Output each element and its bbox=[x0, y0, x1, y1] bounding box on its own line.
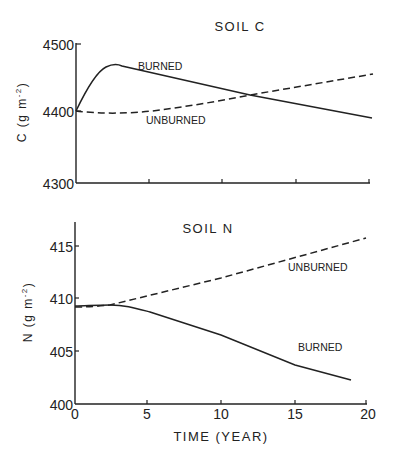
soil-n-xtick-0: 0 bbox=[71, 406, 79, 422]
soil-c-unburned-line bbox=[76, 74, 373, 113]
soil-c-y-axis-label: C (g m-2) bbox=[14, 82, 29, 143]
soil-n-ytick-410: 410 bbox=[50, 291, 74, 307]
soil-c-ytick-4500: 4500 bbox=[43, 37, 74, 53]
soil-n-xtick-20: 20 bbox=[360, 406, 376, 422]
soil-c-title: SOIL C bbox=[214, 19, 265, 34]
soil-n-xtick-15: 15 bbox=[287, 406, 303, 422]
soil-n-xtick-10: 10 bbox=[213, 406, 229, 422]
soil-c-ytick-4400: 4400 bbox=[43, 104, 74, 120]
soil-n-chart: SOIL N 415 410 405 400 0 5 10 15 20 TIME… bbox=[20, 221, 376, 444]
soil-n-x-axis-label: TIME (YEAR) bbox=[173, 429, 268, 444]
soil-n-xtick-5: 5 bbox=[143, 406, 151, 422]
soil-c-ytick-4300: 4300 bbox=[43, 176, 74, 192]
soil-n-y-axis-label: N (g m-2) bbox=[20, 282, 35, 343]
soil-c-burned-line bbox=[76, 65, 372, 118]
soil-n-title: SOIL N bbox=[182, 221, 233, 236]
figure: SOIL C 4500 4400 4300 C (g m-2) BURNED U… bbox=[0, 0, 393, 457]
soil-n-ytick-415: 415 bbox=[50, 239, 74, 255]
soil-c-chart: SOIL C 4500 4400 4300 C (g m-2) BURNED U… bbox=[14, 19, 373, 192]
soil-c-burned-label: BURNED bbox=[138, 60, 183, 72]
soil-n-ytick-405: 405 bbox=[50, 344, 74, 360]
soil-n-ytick-400: 400 bbox=[50, 397, 74, 413]
soil-n-unburned-label: UNBURNED bbox=[288, 261, 348, 273]
soil-n-burned-label: BURNED bbox=[298, 341, 343, 353]
soil-c-unburned-label: UNBURNED bbox=[146, 114, 206, 126]
